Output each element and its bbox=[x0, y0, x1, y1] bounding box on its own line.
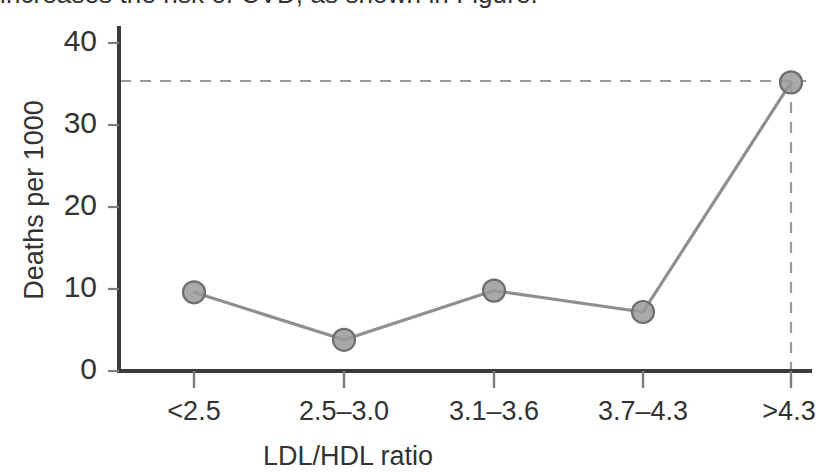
data-point-marker bbox=[780, 71, 802, 93]
y-axis-tick-labels: 40 30 20 10 0 bbox=[64, 24, 97, 385]
x-tick-label-3: 3.7–4.3 bbox=[598, 396, 688, 426]
data-point-marker bbox=[183, 281, 205, 303]
x-axis-ticks bbox=[194, 371, 791, 388]
y-tick-label-20: 20 bbox=[64, 188, 97, 221]
x-axis-title: LDL/HDL ratio bbox=[263, 441, 433, 471]
x-tick-label-4: >4.3 bbox=[762, 396, 815, 426]
data-point-marker bbox=[483, 280, 505, 302]
y-axis-title: Deaths per 1000 bbox=[19, 100, 49, 300]
figure-root: increases the risk of CVD, as shown in F… bbox=[0, 0, 821, 472]
x-tick-label-1: 2.5–3.0 bbox=[299, 396, 389, 426]
y-tick-label-0: 0 bbox=[80, 352, 97, 385]
x-tick-label-2: 3.1–3.6 bbox=[449, 396, 539, 426]
y-tick-label-10: 10 bbox=[64, 270, 97, 303]
line-chart: 40 30 20 10 0 Deaths per 1000 <2.5 2.5–3… bbox=[0, 0, 821, 472]
y-tick-label-30: 30 bbox=[64, 106, 97, 139]
data-point-marker bbox=[632, 301, 654, 323]
x-axis-tick-labels: <2.5 2.5–3.0 3.1–3.6 3.7–4.3 >4.3 bbox=[167, 396, 815, 426]
x-tick-label-0: <2.5 bbox=[167, 396, 220, 426]
y-tick-label-40: 40 bbox=[64, 24, 97, 57]
data-point-marker bbox=[333, 329, 355, 351]
